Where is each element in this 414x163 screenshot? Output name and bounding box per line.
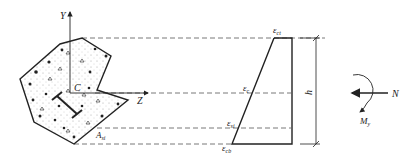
strain-centroid-label: εc [243, 83, 250, 94]
axial-force-label: N [391, 88, 400, 99]
height-label: h [303, 90, 314, 95]
strain-steel-label: εsi [227, 118, 235, 129]
axis-z-label: Z [137, 95, 143, 106]
centroid-label: C [74, 82, 81, 93]
strain-top-label: εct [273, 25, 281, 36]
steel-area-label: Asi [95, 130, 106, 141]
section-strain-diagram: Y Z C Asi εct εc εsi εcb h N My [0, 0, 414, 163]
strain-bottom-label: εcb [222, 143, 231, 154]
projection-lines [74, 38, 325, 144]
diagram-canvas: Y Z C Asi εct εc εsi εcb h N My [0, 0, 414, 163]
axis-y-label: Y [60, 10, 67, 21]
moment-label: My [359, 116, 371, 127]
